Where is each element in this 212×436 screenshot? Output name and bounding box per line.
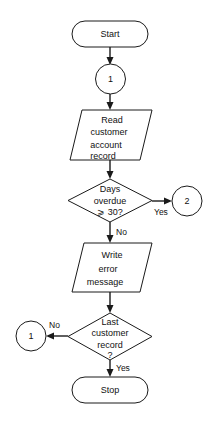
node-write-error-line1: Write: [102, 250, 123, 260]
node-decision-overdue-line1: Days: [100, 184, 121, 194]
node-decision-overdue-line3: ⩾ 30?: [97, 207, 123, 217]
arrowhead-connector1-to-read: [107, 102, 114, 110]
node-decision-last-line2: customer: [91, 328, 128, 338]
node-connector-in-1-label: 1: [108, 74, 113, 84]
arrowhead-write-to-decision-last: [107, 305, 114, 313]
node-read-record-line1: Read: [101, 115, 123, 125]
node-connector-out-2-label: 2: [184, 196, 189, 206]
node-decision-last-line1: Last: [101, 317, 119, 327]
arrowhead-read-to-decision-overdue: [107, 171, 114, 179]
edge-label-overdue-no: No: [116, 227, 127, 237]
node-decision-overdue-line2: overdue: [94, 196, 127, 206]
edge-label-last-no: No: [49, 320, 60, 330]
arrowhead-overdue-no: [107, 235, 114, 243]
node-read-record-line2: customer: [90, 127, 127, 137]
edge-label-overdue-yes: Yes: [154, 207, 168, 217]
node-decision-last-line4: ?: [107, 350, 112, 360]
flowchart-svg: Start 1 Read customer account record Day…: [0, 0, 212, 436]
node-write-error-line2: error: [98, 264, 117, 274]
node-write-error-line3: message: [87, 277, 124, 287]
node-read-record-line4: record: [90, 151, 116, 161]
node-read-record-line3: account: [90, 140, 122, 150]
arrowhead-last-yes: [107, 369, 114, 377]
node-connector-out-1-label: 1: [28, 331, 33, 341]
edge-label-last-yes: Yes: [116, 363, 130, 373]
node-start-label: Start: [100, 29, 120, 39]
node-stop-label: Stop: [101, 385, 120, 395]
arrowhead-last-no: [46, 333, 54, 340]
flowchart-canvas: Start 1 Read customer account record Day…: [0, 0, 212, 436]
arrowhead-overdue-yes: [164, 198, 172, 205]
node-decision-last-line3: record: [97, 340, 123, 350]
